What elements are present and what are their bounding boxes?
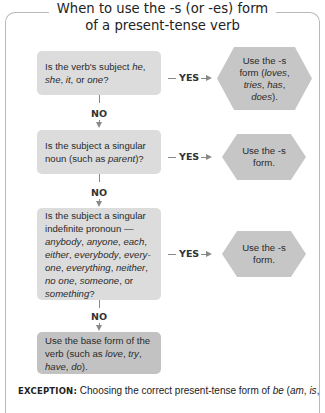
exception-label: EXCEPTION: [18,386,77,396]
no-label-1: NO [91,108,107,119]
arrow-down-icon [96,201,102,207]
arrow-down-icon [96,325,102,331]
yes-connector-1 [168,78,176,79]
title-line-2: of a present-tense verb [81,17,244,34]
diagram-title: When to use the -s (or -es) form of a pr… [0,0,325,34]
outcome-hex-3: Use the -s form. [222,231,306,277]
title-line-1: When to use the -s (or -es) form [49,0,276,17]
question-box-1: Is the verb's subject he, she, it, or on… [37,51,161,95]
arrow-down-icon [96,122,102,128]
arrow-right-icon [206,75,212,81]
no-label-3: NO [91,311,107,322]
no-connector-1 [99,95,100,103]
outcome-hex-1: Use the -s form (loves, tries, has, does… [217,47,312,110]
arrow-right-icon [206,154,212,160]
no-connector-2 [99,174,100,182]
outcome-text: Use the -s form. [241,145,287,169]
yes-label-2: YES [179,151,199,162]
exception-note: EXCEPTION: Choosing the correct present-… [18,385,319,396]
question-box-2: Is the subject a singular noun (such as … [37,130,161,174]
yes-connector-3 [168,254,176,255]
outcome-hex-2: Use the -s form. [222,134,306,180]
question-box-3: Is the subject a singular indefinite pro… [37,208,161,300]
question-text: Is the subject a singular indefinite pro… [45,209,153,300]
outcome-text: Use the -s form. [241,242,287,266]
exception-text: Choosing the correct present-tense form … [77,385,319,396]
question-text: Is the verb's subject he, she, it, or on… [45,60,153,86]
yes-label-3: YES [179,248,199,259]
question-text: Is the subject a singular noun (such as … [45,139,153,165]
no-label-2: NO [91,187,107,198]
final-outcome-box: Use the base form of the verb (such as l… [37,332,161,374]
no-connector-3 [99,300,100,308]
yes-connector-2 [168,157,176,158]
final-text: Use the base form of the verb (such as l… [45,334,153,373]
yes-label-1: YES [179,72,199,83]
arrow-right-icon [206,251,212,257]
outcome-text: Use the -s form (loves, tries, has, does… [237,55,293,103]
